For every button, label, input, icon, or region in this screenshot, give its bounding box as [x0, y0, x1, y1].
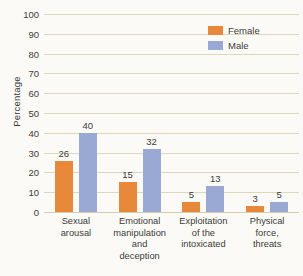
- legend-label: Female: [228, 25, 260, 36]
- y-axis-title: Percentage: [11, 62, 22, 142]
- bar-group: 2640: [44, 14, 108, 212]
- gridline-0: [44, 212, 299, 213]
- bar-male[interactable]: 32: [143, 149, 161, 212]
- category-label-line: Sexual: [45, 216, 107, 228]
- y-axis-tick-70: 70: [28, 68, 39, 79]
- chart-legend: FemaleMale: [208, 25, 260, 51]
- category-label-line: deception: [109, 251, 171, 263]
- bar-value-label: 26: [59, 148, 70, 159]
- bar-value-label: 3: [252, 193, 257, 204]
- bar-female[interactable]: 26: [55, 161, 73, 212]
- bar-fill: [55, 161, 73, 212]
- bar-value-label: 5: [189, 189, 194, 200]
- bar-value-label: 15: [122, 169, 133, 180]
- category-label-line: and: [109, 239, 171, 251]
- category-label-line: Exploitation: [173, 216, 235, 228]
- category-label: Exploitationof theintoxicated: [172, 216, 236, 262]
- bar-fill: [182, 202, 200, 212]
- bar-male[interactable]: 13: [206, 186, 224, 212]
- y-axis-tick-90: 90: [28, 28, 39, 39]
- category-label: Sexualarousal: [44, 216, 108, 262]
- category-label: Physicalforce,threats: [235, 216, 299, 262]
- legend-item-male[interactable]: Male: [208, 40, 260, 51]
- legend-label: Male: [228, 40, 249, 51]
- bar-male[interactable]: 5: [270, 202, 288, 212]
- bar-female[interactable]: 15: [119, 182, 137, 212]
- bar-value-label: 32: [146, 136, 157, 147]
- bar-fill: [119, 182, 137, 212]
- y-axis-tick-100: 100: [23, 9, 39, 20]
- category-label-line: force,: [236, 228, 298, 240]
- category-label: Emotionalmanipulationanddeception: [108, 216, 172, 262]
- category-label-line: Emotional: [109, 216, 171, 228]
- bar-value-label: 5: [276, 189, 281, 200]
- category-label-line: of the: [173, 228, 235, 240]
- y-axis-tick-30: 30: [28, 147, 39, 158]
- y-axis-tick-20: 20: [28, 167, 39, 178]
- bar-groups: 2640153251335: [44, 14, 299, 212]
- category-label-line: Physical: [236, 216, 298, 228]
- bar-fill: [143, 149, 161, 212]
- bar-fill: [206, 186, 224, 212]
- legend-item-female[interactable]: Female: [208, 25, 260, 36]
- y-axis-tick-10: 10: [28, 187, 39, 198]
- category-axis-labels: SexualarousalEmotionalmanipulationanddec…: [44, 216, 299, 262]
- category-label-line: intoxicated: [173, 239, 235, 251]
- category-label-line: threats: [236, 239, 298, 251]
- legend-swatch: [208, 26, 223, 35]
- y-axis-tick-40: 40: [28, 127, 39, 138]
- y-axis-tick-0: 0: [34, 207, 39, 218]
- category-label-line: arousal: [45, 228, 107, 240]
- category-label-line: manipulation: [109, 228, 171, 240]
- bar-fill: [270, 202, 288, 212]
- bar-fill: [246, 206, 264, 212]
- bar-value-label: 40: [83, 120, 94, 131]
- bar-value-label: 13: [210, 173, 221, 184]
- y-axis-tick-50: 50: [28, 108, 39, 119]
- y-axis-tick-60: 60: [28, 88, 39, 99]
- bar-fill: [79, 133, 97, 212]
- bar-group: 1532: [108, 14, 172, 212]
- y-axis-tick-80: 80: [28, 48, 39, 59]
- bar-chart: Percentage 0102030405060708090100 264015…: [0, 0, 303, 276]
- bar-female[interactable]: 3: [246, 206, 264, 212]
- bar-male[interactable]: 40: [79, 133, 97, 212]
- plot-area: 0102030405060708090100 2640153251335: [44, 14, 299, 212]
- legend-swatch: [208, 41, 223, 50]
- bar-female[interactable]: 5: [182, 202, 200, 212]
